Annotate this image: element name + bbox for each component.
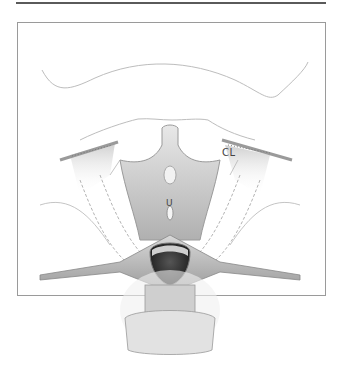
label-u: U (166, 198, 173, 208)
label-cl: CL (222, 147, 236, 158)
lower-tissue (120, 270, 220, 355)
left-clamp (60, 142, 118, 195)
body-outline (42, 62, 308, 97)
surgical-illustration (0, 0, 340, 373)
tissue-body (120, 125, 220, 240)
